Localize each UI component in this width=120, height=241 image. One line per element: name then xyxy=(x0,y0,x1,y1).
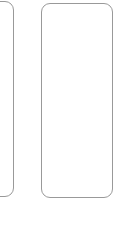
screen-background xyxy=(0,0,120,241)
empty-card-outline-left[interactable] xyxy=(0,1,14,197)
empty-card-outline-right[interactable] xyxy=(41,3,113,198)
